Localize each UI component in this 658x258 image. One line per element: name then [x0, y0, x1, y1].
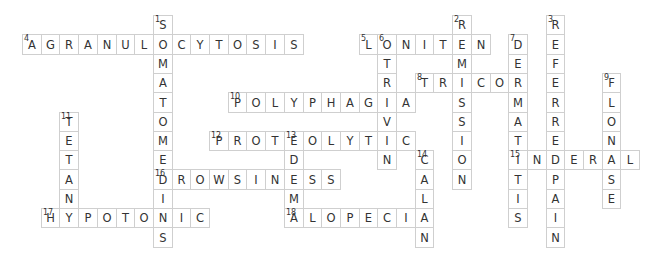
crossword-cell[interactable]: N — [97, 34, 117, 55]
crossword-cell[interactable]: T — [359, 131, 378, 151]
crossword-cell[interactable]: A — [396, 92, 416, 113]
crossword-cell[interactable]: 12P — [209, 131, 229, 151]
crossword-cell[interactable]: C — [172, 34, 191, 55]
crossword-cell[interactable]: 13E — [284, 131, 304, 151]
crossword-cell[interactable]: R — [583, 150, 603, 170]
crossword-cell[interactable]: P — [340, 208, 360, 228]
crossword-cell[interactable]: I — [153, 189, 173, 209]
crossword-cell[interactable]: E — [564, 150, 584, 170]
crossword-cell[interactable]: T — [209, 34, 229, 55]
crossword-cell[interactable]: E — [546, 131, 565, 151]
crossword-cell[interactable]: 18A — [284, 208, 304, 228]
crossword-cell[interactable]: O — [97, 208, 117, 228]
crossword-cell[interactable]: N — [602, 131, 621, 151]
crossword-cell[interactable]: R — [172, 169, 191, 190]
crossword-cell[interactable]: N — [377, 150, 397, 170]
crossword-cell[interactable]: M — [508, 92, 528, 113]
crossword-cell[interactable]: E — [546, 73, 565, 93]
crossword-cell[interactable]: T — [153, 92, 173, 113]
crossword-cell[interactable]: S — [602, 169, 621, 190]
crossword-cell[interactable]: P — [78, 208, 98, 228]
crossword-cell[interactable]: D — [546, 150, 565, 170]
crossword-cell[interactable]: C — [396, 131, 416, 151]
crossword-cell[interactable]: 2R — [452, 15, 472, 35]
crossword-cell[interactable]: 15I — [508, 150, 528, 170]
crossword-cell[interactable]: L — [265, 92, 285, 113]
crossword-cell[interactable]: U — [116, 34, 135, 55]
crossword-cell[interactable]: S — [246, 34, 266, 55]
crossword-cell[interactable]: A — [546, 189, 565, 209]
crossword-cell[interactable]: O — [134, 208, 154, 228]
crossword-cell[interactable]: A — [59, 169, 79, 190]
crossword-cell[interactable]: E — [59, 131, 79, 151]
crossword-cell[interactable]: I — [377, 92, 397, 113]
crossword-cell[interactable]: A — [415, 169, 434, 190]
crossword-cell[interactable]: I — [508, 189, 528, 209]
crossword-cell[interactable]: O — [246, 92, 266, 113]
crossword-cell[interactable]: S — [303, 169, 322, 190]
crossword-cell[interactable]: N — [59, 189, 79, 209]
crossword-cell[interactable]: Y — [190, 34, 210, 55]
crossword-cell[interactable]: I — [172, 208, 191, 228]
crossword-cell[interactable]: R — [433, 73, 453, 93]
crossword-cell[interactable]: L — [415, 189, 434, 209]
crossword-cell[interactable]: P — [303, 92, 322, 113]
crossword-cell[interactable]: 16D — [153, 169, 173, 190]
crossword-cell[interactable]: A — [415, 208, 434, 228]
crossword-cell[interactable]: T — [265, 131, 285, 151]
crossword-cell[interactable]: E — [602, 189, 621, 209]
crossword-cell[interactable]: N — [452, 169, 472, 190]
crossword-cell[interactable]: A — [153, 73, 173, 93]
crossword-cell[interactable]: A — [340, 92, 360, 113]
crossword-cell[interactable]: N — [265, 169, 285, 190]
crossword-cell[interactable]: I — [415, 34, 434, 55]
crossword-cell[interactable]: L — [303, 208, 322, 228]
crossword-cell[interactable]: R — [508, 73, 528, 93]
crossword-cell[interactable]: M — [284, 189, 304, 209]
crossword-cell[interactable]: D — [284, 150, 304, 170]
crossword-cell[interactable]: P — [546, 169, 565, 190]
crossword-cell[interactable]: S — [153, 227, 173, 248]
crossword-cell[interactable]: E — [546, 34, 565, 55]
crossword-cell[interactable]: N — [471, 34, 491, 55]
crossword-cell[interactable]: A — [78, 34, 98, 55]
crossword-cell[interactable]: N — [546, 227, 565, 248]
crossword-cell[interactable]: 1S — [153, 15, 173, 35]
crossword-cell[interactable]: E — [153, 150, 173, 170]
crossword-cell[interactable]: M — [153, 131, 173, 151]
crossword-cell[interactable]: O — [303, 131, 322, 151]
crossword-cell[interactable]: R — [546, 112, 565, 132]
crossword-cell[interactable]: 3R — [546, 15, 565, 35]
crossword-cell[interactable]: R — [228, 131, 247, 151]
crossword-cell[interactable]: O — [321, 208, 341, 228]
crossword-cell[interactable]: O — [153, 34, 173, 55]
crossword-cell[interactable]: G — [359, 92, 378, 113]
crossword-cell[interactable]: S — [321, 169, 341, 190]
crossword-cell[interactable]: 4A — [22, 34, 42, 55]
crossword-cell[interactable]: T — [508, 131, 528, 151]
crossword-cell[interactable]: Y — [340, 131, 360, 151]
crossword-cell[interactable]: M — [452, 54, 472, 74]
crossword-cell[interactable]: I — [377, 131, 397, 151]
crossword-cell[interactable]: 6O — [377, 34, 397, 55]
crossword-cell[interactable]: L — [321, 131, 341, 151]
crossword-cell[interactable]: N — [396, 34, 416, 55]
crossword-cell[interactable]: Y — [59, 208, 79, 228]
crossword-cell[interactable]: 5L — [359, 34, 378, 55]
crossword-cell[interactable]: 14C — [415, 150, 434, 170]
crossword-cell[interactable]: 17H — [41, 208, 60, 228]
crossword-cell[interactable]: O — [602, 112, 621, 132]
crossword-cell[interactable]: E — [359, 208, 378, 228]
crossword-cell[interactable]: N — [527, 150, 547, 170]
crossword-cell[interactable]: S — [284, 34, 304, 55]
crossword-cell[interactable]: A — [508, 112, 528, 132]
crossword-cell[interactable]: T — [116, 208, 135, 228]
crossword-cell[interactable]: 8T — [415, 73, 434, 93]
crossword-cell[interactable]: O — [246, 131, 266, 151]
crossword-cell[interactable]: O — [153, 112, 173, 132]
crossword-cell[interactable]: S — [508, 208, 528, 228]
crossword-cell[interactable]: M — [153, 54, 173, 74]
crossword-cell[interactable]: A — [602, 150, 621, 170]
crossword-cell[interactable]: S — [228, 169, 247, 190]
crossword-cell[interactable]: H — [321, 92, 341, 113]
